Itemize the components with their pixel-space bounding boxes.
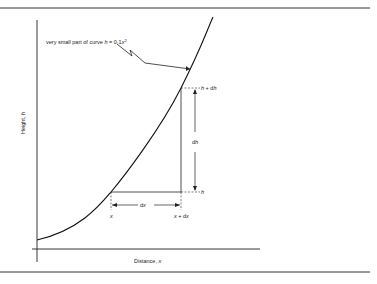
dh-arrowhead-down [193,186,197,191]
x-label: x [109,213,113,219]
h-plus-dh-label: h + dh [201,85,216,91]
x-axis-label: Distance, x [134,258,161,264]
diagram-canvas: very small part of curve h = 0·1x2 h + d… [0,0,377,284]
x-plus-dx-label: x + dx [173,213,189,219]
curve-annotation: very small part of curve h = 0·1x2 [46,38,127,46]
dx-arrowhead-left [112,203,117,207]
h-label: h [201,189,204,195]
zigzag-pointer [117,44,190,69]
dx-label: dx [140,202,146,208]
dx-arrowhead-right [175,203,180,207]
dh-label: dh [192,139,198,145]
dh-arrowhead-up [193,89,197,94]
y-axis-label: Height, h [20,112,26,134]
